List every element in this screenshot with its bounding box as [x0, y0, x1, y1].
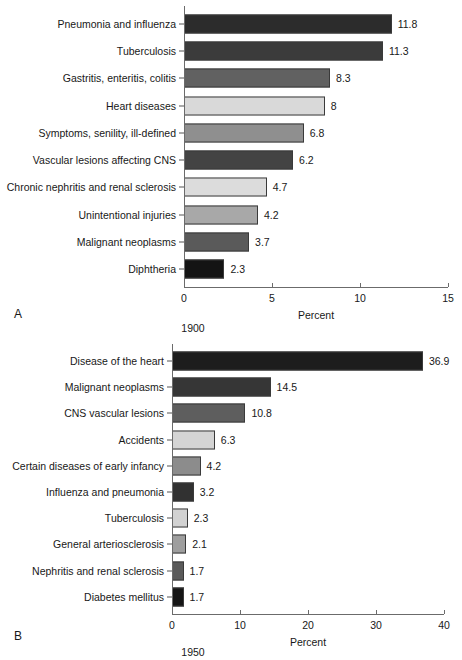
bar-row[interactable]: Unintentional injuries4.2	[0, 201, 462, 228]
bar[interactable]	[172, 509, 188, 528]
bar[interactable]	[184, 96, 325, 115]
category-label: Gastritis, enteritis, colitis	[63, 72, 176, 84]
panel-b-year-caption: 1950	[181, 646, 204, 658]
bar-row[interactable]: Disease of the heart36.9	[0, 348, 462, 374]
x-axis-tick-label: 20	[302, 619, 314, 631]
bar-value-label: 4.7	[273, 181, 288, 193]
bar-value-label: 2.3	[194, 512, 209, 524]
bar[interactable]	[184, 233, 249, 252]
x-axis-tick-label: 30	[370, 619, 382, 631]
bar[interactable]	[184, 205, 258, 224]
bar-value-label: 6.3	[221, 434, 236, 446]
bar-row[interactable]: Tuberculosis2.3	[0, 505, 462, 531]
bar[interactable]	[184, 14, 392, 33]
category-label: Heart diseases	[106, 100, 176, 112]
x-axis-tick	[308, 610, 309, 614]
x-axis-tick	[360, 283, 361, 287]
x-axis-title: Percent	[298, 309, 334, 321]
bar[interactable]	[184, 41, 383, 60]
bar-row[interactable]: Gastritis, enteritis, colitis8.3	[0, 65, 462, 92]
x-axis-tick-label: 40	[438, 619, 450, 631]
bar-value-label: 6.8	[310, 127, 325, 139]
bar[interactable]	[184, 69, 330, 88]
x-axis-tick-label: 10	[234, 619, 246, 631]
bar-row[interactable]: CNS vascular lesions10.8	[0, 400, 462, 426]
bar-row[interactable]: Heart diseases8	[0, 92, 462, 119]
bar[interactable]	[172, 430, 215, 449]
y-axis-spine	[184, 6, 185, 287]
chart-b-plot-area: Disease of the heart36.9Malignant neopla…	[0, 330, 462, 620]
category-label: Malignant neoplasms	[77, 236, 176, 248]
bar-row[interactable]: Certain diseases of early infancy4.2	[0, 453, 462, 479]
bar-value-label: 4.2	[207, 460, 222, 472]
x-axis-title: Percent	[290, 636, 326, 648]
x-axis-tick-label: 10	[354, 292, 366, 304]
category-label: Symptoms, senility, ill-defined	[38, 127, 176, 139]
x-axis-tick	[184, 283, 185, 287]
x-axis-tick	[272, 283, 273, 287]
bar-value-label: 10.8	[251, 407, 271, 419]
bar[interactable]	[172, 378, 271, 397]
bar-value-label: 8	[331, 100, 337, 112]
bar-value-label: 14.5	[277, 381, 297, 393]
bar-row[interactable]: Diabetes mellitus1.7	[0, 584, 462, 610]
bar-value-label: 3.7	[255, 236, 270, 248]
bar-row[interactable]: Accidents6.3	[0, 427, 462, 453]
category-label: CNS vascular lesions	[64, 407, 164, 419]
bar[interactable]	[184, 260, 224, 279]
bar[interactable]	[184, 123, 304, 142]
bar-row[interactable]: Tuberculosis11.3	[0, 37, 462, 64]
x-axis-tick-label: 0	[169, 619, 175, 631]
category-label: Unintentional injuries	[79, 209, 176, 221]
bar-row[interactable]: Chronic nephritis and renal sclerosis4.7	[0, 174, 462, 201]
bar-row[interactable]: Malignant neoplasms14.5	[0, 374, 462, 400]
bar[interactable]	[172, 535, 186, 554]
category-label: Influenza and pneumonia	[46, 486, 164, 498]
bar-row[interactable]: Vascular lesions affecting CNS6.2	[0, 147, 462, 174]
bar-value-label: 8.3	[336, 72, 351, 84]
category-label: Nephritis and renal sclerosis	[32, 565, 164, 577]
panel-b: Disease of the heart36.9Malignant neopla…	[0, 330, 462, 660]
bar-row[interactable]: Symptoms, senility, ill-defined6.8	[0, 119, 462, 146]
x-axis-tick	[444, 610, 445, 614]
bar[interactable]	[172, 404, 245, 423]
category-label: Pneumonia and influenza	[57, 18, 176, 30]
x-axis-tick	[240, 610, 241, 614]
x-axis-tick-label: 0	[181, 292, 187, 304]
x-axis-tick	[448, 283, 449, 287]
bar-row[interactable]: Pneumonia and influenza11.8	[0, 10, 462, 37]
category-label: General arteriosclerosis	[53, 538, 164, 550]
bar-value-label: 36.9	[429, 355, 449, 367]
category-label: Diabetes mellitus	[84, 591, 164, 603]
chart-a-plot-area: Pneumonia and influenza11.8Tuberculosis1…	[0, 0, 462, 300]
bar-row[interactable]: Malignant neoplasms3.7	[0, 228, 462, 255]
category-label: Vascular lesions affecting CNS	[33, 154, 176, 166]
bar[interactable]	[172, 352, 423, 371]
x-axis-line	[184, 287, 448, 288]
bar-value-label: 11.3	[389, 45, 409, 57]
x-axis-tick	[172, 610, 173, 614]
panel-b-letter: B	[14, 630, 22, 643]
bar-row[interactable]: Nephritis and renal sclerosis1.7	[0, 558, 462, 584]
category-label: Certain diseases of early infancy	[12, 460, 164, 472]
category-label: Diphtheria	[128, 263, 176, 275]
bar-value-label: 6.2	[299, 154, 314, 166]
bar[interactable]	[172, 561, 184, 580]
bar-row[interactable]: Diphtheria2.3	[0, 256, 462, 283]
bar-row[interactable]: Influenza and pneumonia3.2	[0, 479, 462, 505]
bar-value-label: 2.3	[230, 263, 245, 275]
bar[interactable]	[184, 151, 293, 170]
bar[interactable]	[172, 456, 201, 475]
bar[interactable]	[172, 587, 184, 606]
bar[interactable]	[184, 178, 267, 197]
bar-value-label: 2.1	[192, 538, 207, 550]
bar-value-label: 1.7	[190, 591, 205, 603]
bar[interactable]	[172, 483, 194, 502]
category-label: Malignant neoplasms	[65, 381, 164, 393]
panel-a-letter: A	[14, 308, 22, 321]
bar-value-label: 11.8	[398, 18, 418, 30]
category-label: Accidents	[118, 434, 164, 446]
bar-value-label: 3.2	[200, 486, 215, 498]
bar-row[interactable]: General arteriosclerosis2.1	[0, 531, 462, 557]
x-axis-tick	[376, 610, 377, 614]
